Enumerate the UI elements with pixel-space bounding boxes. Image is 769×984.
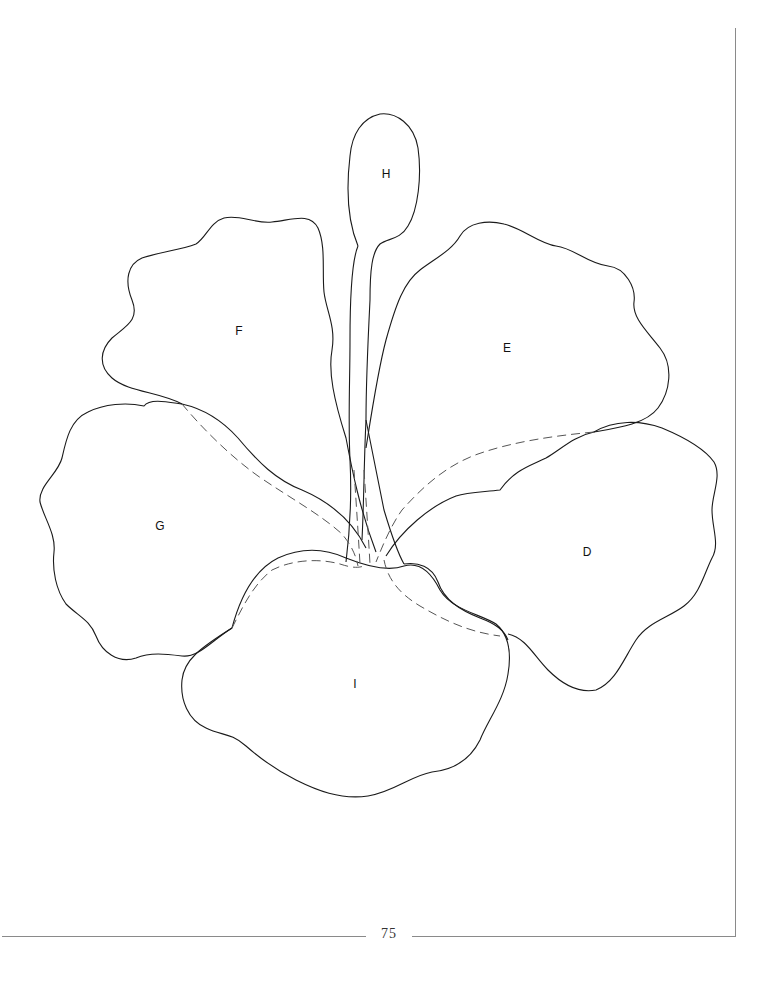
petal-g-outline (40, 401, 232, 659)
stamen-right-edge (366, 420, 404, 564)
piece-label-d: D (583, 545, 592, 559)
petal-g-inner-edge (182, 404, 366, 548)
page-number: 75 (366, 926, 412, 942)
dashed-guide-e-d (376, 432, 594, 562)
piece-label-f: F (235, 324, 242, 338)
petal-d-outline (508, 422, 717, 690)
page-border-bottom-left (2, 936, 366, 937)
petal-i-outline (182, 551, 510, 797)
stamen-left-edge (346, 246, 358, 562)
piece-label-g: G (155, 519, 164, 533)
dashed-guide-i-top (232, 561, 364, 628)
petal-e-outline (366, 222, 669, 556)
dashed-guide-f-g (182, 404, 358, 566)
dashed-guide-stamen-mid (364, 470, 370, 564)
petal-d-inner-edge (404, 564, 508, 640)
hibiscus-pattern-drawing (0, 0, 769, 984)
dashed-guide-d-i (384, 560, 500, 636)
petal-f-outline (102, 217, 376, 552)
page-border-right (735, 28, 736, 936)
dashed-guide-stamen-left (354, 470, 360, 564)
page-border-bottom-right (412, 936, 736, 937)
piece-label-i: I (353, 677, 356, 691)
pattern-page: H F E G D I 75 (0, 0, 769, 984)
piece-label-h: H (382, 167, 391, 181)
piece-label-e: E (503, 341, 511, 355)
